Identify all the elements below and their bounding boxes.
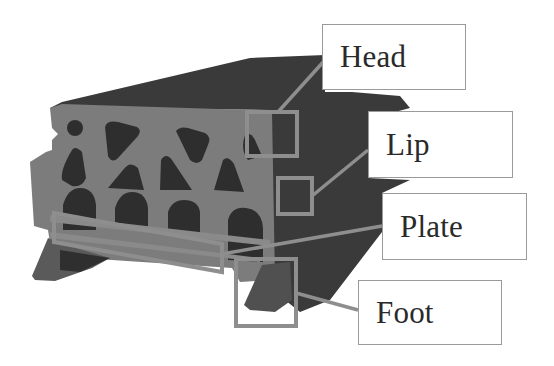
label-plate: Plate (382, 193, 527, 260)
label-lip-text: Lip (386, 127, 430, 163)
label-lip: Lip (368, 111, 513, 178)
label-foot: Foot (358, 280, 502, 345)
label-head: Head (322, 24, 466, 90)
label-plate-text: Plate (400, 209, 463, 245)
label-head-text: Head (340, 39, 406, 75)
diagram-stage: Head Lip Plate Foot (0, 0, 554, 366)
label-foot-text: Foot (376, 295, 434, 331)
